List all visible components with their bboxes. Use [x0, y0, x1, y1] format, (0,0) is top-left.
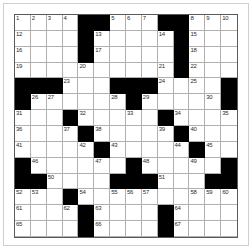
- crossword-cell[interactable]: 64: [174, 205, 190, 221]
- crossword-cell[interactable]: 57: [142, 189, 158, 205]
- crossword-cell[interactable]: 46: [31, 158, 47, 174]
- crossword-cell[interactable]: 47: [94, 158, 110, 174]
- crossword-cell[interactable]: 23: [63, 78, 79, 94]
- crossword-cell[interactable]: 42: [78, 142, 94, 158]
- crossword-cell[interactable]: 44: [174, 142, 190, 158]
- crossword-cell[interactable]: 12: [15, 31, 31, 47]
- crossword-cell[interactable]: [78, 78, 94, 94]
- crossword-cell[interactable]: 56: [126, 189, 142, 205]
- crossword-cell[interactable]: [189, 174, 205, 190]
- crossword-cell[interactable]: [110, 205, 126, 221]
- crossword-cell[interactable]: [110, 126, 126, 142]
- crossword-cell[interactable]: [126, 221, 142, 237]
- crossword-cell[interactable]: [94, 78, 110, 94]
- crossword-cell[interactable]: 3: [47, 15, 63, 31]
- crossword-cell[interactable]: 5: [110, 15, 126, 31]
- crossword-cell[interactable]: [142, 47, 158, 63]
- crossword-cell[interactable]: [126, 63, 142, 79]
- crossword-cell[interactable]: [110, 47, 126, 63]
- crossword-cell[interactable]: 10: [221, 15, 237, 31]
- crossword-cell[interactable]: [94, 174, 110, 190]
- crossword-cell[interactable]: 25: [189, 78, 205, 94]
- crossword-cell[interactable]: 39: [158, 126, 174, 142]
- crossword-cell[interactable]: [47, 221, 63, 237]
- crossword-cell[interactable]: [47, 158, 63, 174]
- crossword-cell[interactable]: 32: [78, 110, 94, 126]
- crossword-cell[interactable]: [31, 221, 47, 237]
- crossword-cell[interactable]: [205, 158, 221, 174]
- crossword-cell[interactable]: [205, 78, 221, 94]
- crossword-cell[interactable]: [158, 142, 174, 158]
- crossword-cell[interactable]: [189, 221, 205, 237]
- crossword-cell[interactable]: [47, 189, 63, 205]
- crossword-cell[interactable]: 19: [15, 63, 31, 79]
- crossword-cell[interactable]: [221, 221, 237, 237]
- crossword-cell[interactable]: 48: [142, 158, 158, 174]
- crossword-cell[interactable]: 26: [31, 94, 47, 110]
- crossword-cell[interactable]: [78, 174, 94, 190]
- crossword-cell[interactable]: [78, 158, 94, 174]
- crossword-cell[interactable]: [205, 126, 221, 142]
- crossword-cell[interactable]: [110, 158, 126, 174]
- crossword-cell[interactable]: 37: [63, 126, 79, 142]
- crossword-cell[interactable]: [142, 110, 158, 126]
- crossword-cell[interactable]: [47, 142, 63, 158]
- crossword-cell[interactable]: [174, 158, 190, 174]
- crossword-cell[interactable]: [174, 94, 190, 110]
- crossword-cell[interactable]: [110, 63, 126, 79]
- crossword-cell[interactable]: [126, 47, 142, 63]
- crossword-cell[interactable]: [221, 205, 237, 221]
- crossword-cell[interactable]: [63, 158, 79, 174]
- crossword-cell[interactable]: [126, 205, 142, 221]
- crossword-cell[interactable]: [47, 205, 63, 221]
- crossword-cell[interactable]: [221, 31, 237, 47]
- crossword-cell[interactable]: [174, 174, 190, 190]
- crossword-cell[interactable]: [221, 63, 237, 79]
- crossword-cell[interactable]: [126, 31, 142, 47]
- crossword-cell[interactable]: [205, 63, 221, 79]
- crossword-cell[interactable]: 30: [205, 94, 221, 110]
- crossword-cell[interactable]: [158, 47, 174, 63]
- crossword-cell[interactable]: [110, 221, 126, 237]
- crossword-cell[interactable]: [158, 189, 174, 205]
- crossword-cell[interactable]: 22: [189, 63, 205, 79]
- crossword-cell[interactable]: 67: [174, 221, 190, 237]
- crossword-cell[interactable]: [94, 189, 110, 205]
- crossword-cell[interactable]: 8: [189, 15, 205, 31]
- crossword-cell[interactable]: [47, 126, 63, 142]
- crossword-cell[interactable]: 58: [189, 189, 205, 205]
- crossword-cell[interactable]: [94, 110, 110, 126]
- crossword-cell[interactable]: [142, 126, 158, 142]
- crossword-cell[interactable]: 36: [15, 126, 31, 142]
- crossword-cell[interactable]: [205, 205, 221, 221]
- crossword-cell[interactable]: 24: [158, 78, 174, 94]
- crossword-cell[interactable]: [78, 94, 94, 110]
- crossword-cell[interactable]: [205, 47, 221, 63]
- crossword-cell[interactable]: 38: [94, 126, 110, 142]
- crossword-cell[interactable]: [174, 189, 190, 205]
- crossword-cell[interactable]: [189, 205, 205, 221]
- crossword-cell[interactable]: [205, 221, 221, 237]
- crossword-cell[interactable]: 27: [47, 94, 63, 110]
- crossword-cell[interactable]: [142, 205, 158, 221]
- crossword-cell[interactable]: [31, 142, 47, 158]
- crossword-cell[interactable]: [63, 63, 79, 79]
- crossword-cell[interactable]: 7: [142, 15, 158, 31]
- crossword-cell[interactable]: [94, 63, 110, 79]
- crossword-cell[interactable]: 54: [78, 189, 94, 205]
- crossword-cell[interactable]: 1: [15, 15, 31, 31]
- crossword-cell[interactable]: 55: [110, 189, 126, 205]
- crossword-cell[interactable]: [63, 221, 79, 237]
- crossword-cell[interactable]: 52: [15, 189, 31, 205]
- crossword-cell[interactable]: [158, 94, 174, 110]
- crossword-cell[interactable]: 17: [94, 47, 110, 63]
- crossword-cell[interactable]: [47, 47, 63, 63]
- crossword-cell[interactable]: [63, 174, 79, 190]
- crossword-cell[interactable]: 61: [15, 205, 31, 221]
- crossword-cell[interactable]: [126, 142, 142, 158]
- crossword-cell[interactable]: [189, 94, 205, 110]
- crossword-cell[interactable]: 60: [221, 189, 237, 205]
- crossword-cell[interactable]: 63: [94, 205, 110, 221]
- crossword-cell[interactable]: 66: [94, 221, 110, 237]
- crossword-cell[interactable]: [174, 78, 190, 94]
